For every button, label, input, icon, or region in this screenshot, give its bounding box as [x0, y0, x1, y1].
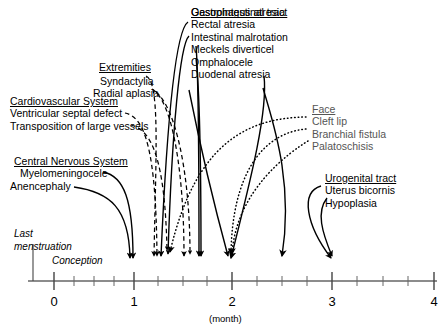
- axis-unit-label: (month): [209, 313, 242, 324]
- group-item-duodenal-atresia: Duodenal atresia: [191, 68, 288, 80]
- marker-conception: Conception: [52, 255, 103, 266]
- marker-last-menstruation-line2: menstruation: [14, 241, 72, 252]
- axis-tick-label-1: 1: [124, 294, 144, 309]
- extremities-connectors: [146, 76, 190, 256]
- group-item-hypoplasia: Hypoplasia: [325, 197, 396, 209]
- marker-last-menstruation-line1: Last: [14, 228, 33, 239]
- group-item-anencephaly: Anencephaly: [10, 180, 128, 192]
- group-item-meckels-diverticel: Meckels diverticel: [191, 43, 288, 55]
- group-heading-urogenital: Urogenital tract: [325, 172, 396, 184]
- group-item-omphalocele: Omphalocele: [191, 56, 288, 68]
- group-item-syndactylia: Syndactylia: [100, 75, 159, 87]
- teratogenesis-timeline-figure: Gastrointestinal tract Oesophagus atresi…: [0, 0, 446, 327]
- group-extremities: Extremities Syndactylia Radial aplasia: [93, 57, 159, 100]
- group-heading-cardiovascular: Cardiovascular System: [10, 95, 149, 107]
- group-item-cleft-lip: Cleft lip: [312, 115, 386, 127]
- cardiovascular-connectors: [125, 113, 167, 256]
- face-connectors: [170, 117, 308, 254]
- group-item-ventricular-septal-defect: Ventricular septal defect: [10, 107, 149, 119]
- group-urogenital: Urogenital tract Uterus bicornis Hypopla…: [325, 172, 396, 209]
- axis-tick-label-4: 4: [424, 294, 444, 309]
- group-heading-extremities: Extremities: [99, 61, 151, 73]
- axis-tick-label-3: 3: [322, 294, 342, 309]
- group-item-transposition-of-large-vessels: Transposition of large vessels: [10, 120, 149, 132]
- group-item-myelomeningocele: Myelomeningocele: [20, 167, 128, 179]
- group-item-uterus-bicornis: Uterus bicornis: [325, 184, 396, 196]
- group-item-intestinal-malrotation: Intestinal malrotation: [191, 31, 288, 43]
- group-item-palatoschisis: Palatoschisis: [312, 140, 386, 152]
- group-heading-central-nervous-system: Central Nervous System: [14, 155, 128, 167]
- group-item-rectal-atresia: Rectal atresia: [191, 18, 288, 30]
- group-heading-face: Face: [312, 103, 386, 115]
- group-heading-gastrointestinal: Gastrointestinal tract: [191, 6, 287, 18]
- axis-tick-label-2: 2: [222, 294, 242, 309]
- group-face: Face Cleft lip Branchial fistula Palatos…: [312, 103, 386, 153]
- axis-tick-label-0: 0: [44, 294, 64, 309]
- timeline-axis: [28, 244, 437, 290]
- group-cardiovascular: Cardiovascular System Ventricular septal…: [10, 95, 149, 132]
- group-central-nervous-system: Central Nervous System Myelomeningocele …: [14, 155, 128, 192]
- group-gastrointestinal: Gastrointestinal tract Oesophagus atresi…: [191, 6, 288, 80]
- group-item-branchial-fistula: Branchial fistula: [312, 128, 386, 140]
